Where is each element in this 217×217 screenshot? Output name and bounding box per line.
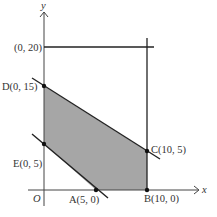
label-A: A(5, 0)	[69, 194, 100, 206]
label-y20: (0, 20)	[14, 42, 42, 54]
label-D: D(0, 15)	[2, 81, 38, 93]
x-axis-label: x	[201, 184, 207, 195]
point-E	[42, 142, 46, 146]
y-axis-label: y	[40, 0, 46, 11]
point-C	[145, 149, 149, 153]
label-B: B(10, 0)	[144, 193, 180, 205]
label-E: E(0, 5)	[13, 158, 43, 170]
origin-label: O	[33, 193, 41, 204]
feasible-region-diagram: y x O (0, 20) D(0, 15) E(0, 5) A(5, 0) B…	[0, 0, 217, 217]
point-D	[42, 84, 46, 88]
feasible-region	[44, 86, 147, 190]
point-B	[145, 188, 149, 192]
point-A	[94, 188, 98, 192]
label-C: C(10, 5)	[151, 144, 187, 156]
